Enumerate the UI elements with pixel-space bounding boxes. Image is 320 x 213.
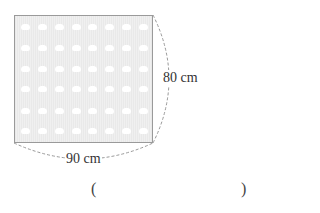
answer-open-paren: (	[91, 180, 96, 198]
height-label: 80 cm	[162, 70, 199, 86]
answer-close-paren: )	[241, 180, 246, 198]
answer-blank[interactable]	[102, 180, 237, 200]
width-label: 90 cm	[65, 151, 102, 167]
